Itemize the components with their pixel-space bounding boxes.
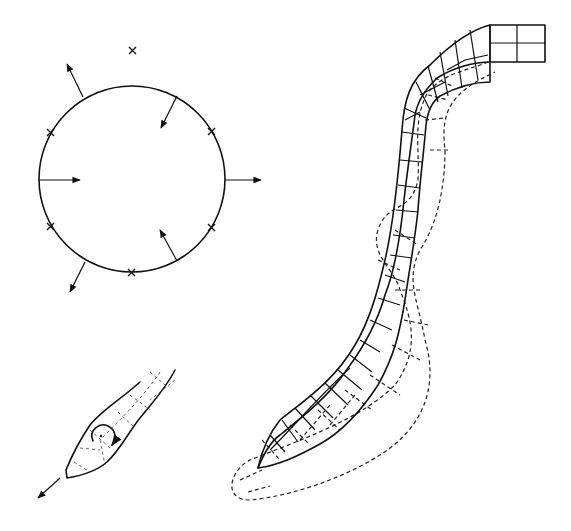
circle-contour (39, 47, 261, 292)
snake-tip (38, 370, 175, 498)
diagram-canvas (0, 0, 571, 531)
arrow-inward-icon (160, 230, 177, 261)
force-arrows (39, 64, 261, 292)
arrow-outward-icon (70, 262, 85, 292)
snake-current-solid (258, 25, 545, 468)
translation-arrow-icon (38, 478, 60, 498)
arrow-outward-icon (67, 64, 83, 97)
control-point-markers (47, 47, 215, 276)
arrow-inward-icon (161, 96, 177, 128)
